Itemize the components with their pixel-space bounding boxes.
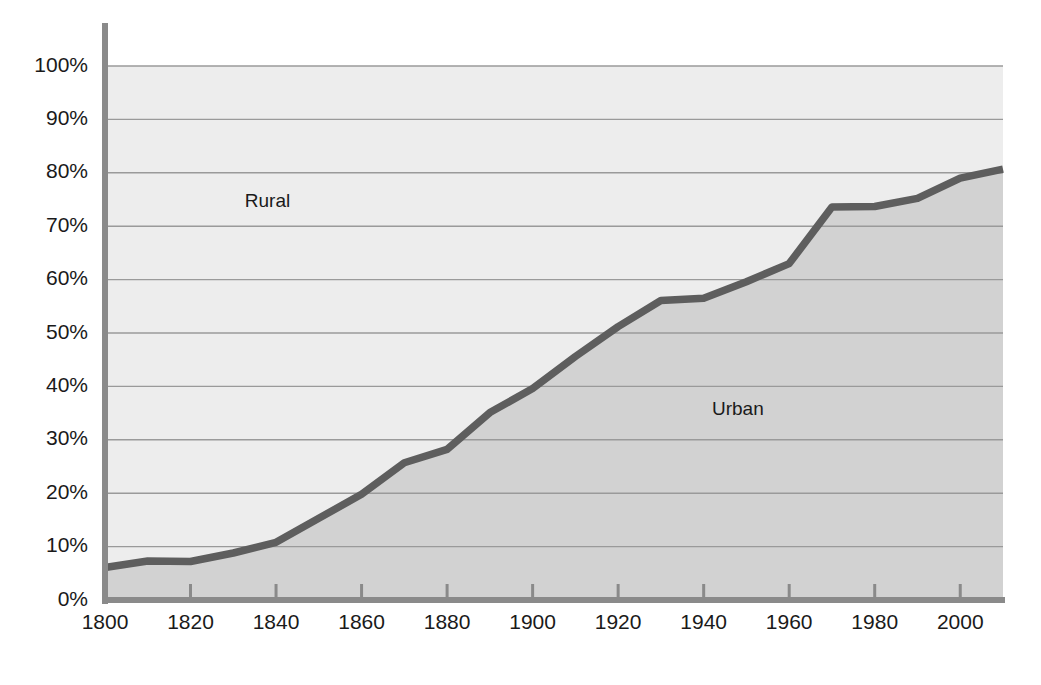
x-tick-label-1920: 1920 <box>595 610 642 633</box>
x-tick-label-1980: 1980 <box>851 610 898 633</box>
urbanization-area-chart: 0%10%20%30%40%50%60%70%80%90%100%1800182… <box>0 0 1041 685</box>
annotation-urban: Urban <box>712 398 764 419</box>
y-tick-label-30%: 30% <box>46 426 88 449</box>
y-axis-tick-labels: 0%10%20%30%40%50%60%70%80%90%100% <box>34 53 88 610</box>
x-tick-label-1940: 1940 <box>680 610 727 633</box>
y-tick-label-20%: 20% <box>46 480 88 503</box>
x-tick-label-2000: 2000 <box>937 610 984 633</box>
annotation-rural: Rural <box>245 190 290 211</box>
y-tick-label-40%: 40% <box>46 373 88 396</box>
y-tick-label-90%: 90% <box>46 106 88 129</box>
x-tick-label-1820: 1820 <box>167 610 214 633</box>
x-tick-label-1960: 1960 <box>766 610 813 633</box>
y-tick-label-60%: 60% <box>46 266 88 289</box>
x-tick-label-1860: 1860 <box>338 610 385 633</box>
x-tick-label-1880: 1880 <box>424 610 471 633</box>
y-tick-label-100%: 100% <box>34 53 88 76</box>
y-tick-label-10%: 10% <box>46 533 88 556</box>
chart-container: 0%10%20%30%40%50%60%70%80%90%100%1800182… <box>0 0 1041 685</box>
y-tick-label-50%: 50% <box>46 320 88 343</box>
y-tick-label-70%: 70% <box>46 213 88 236</box>
y-tick-label-0%: 0% <box>58 587 88 610</box>
x-tick-label-1900: 1900 <box>509 610 556 633</box>
x-tick-label-1800: 1800 <box>82 610 129 633</box>
x-tick-label-1840: 1840 <box>253 610 300 633</box>
y-tick-label-80%: 80% <box>46 159 88 182</box>
